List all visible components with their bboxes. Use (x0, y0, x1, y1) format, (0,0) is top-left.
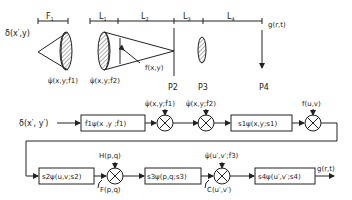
svg-text:F1: F1 (46, 12, 54, 22)
phase-label-2: ψ̄(x,y;f̂2) (90, 76, 120, 85)
mult1-input-label: ψ̄(x,y;f̂1) (145, 99, 175, 108)
block-s4-psi: s4ψ(u′,v′;s4) (258, 173, 301, 181)
block-input-label: δ(x′, y′) (19, 119, 48, 128)
output-label-top: g(r,t) (268, 21, 286, 29)
plane-p4: P4 (259, 83, 269, 92)
optical-labels: F1 L1 L2 L3 L4 δ(x′,y) f(x,y) ψ̄(x,y;f̂1… (5, 12, 286, 92)
output-label-bottom: g(r,t) (317, 165, 335, 173)
svg-text:L4: L4 (227, 12, 235, 22)
block-f1-psi: f̂1ψ(x ,y ;f̂1) (85, 119, 127, 128)
phase-label-1: ψ̄(x,y;f̂1) (48, 76, 78, 85)
svg-text:L1: L1 (99, 12, 107, 22)
block-row-1 (26, 109, 337, 176)
svg-text:L3: L3 (183, 12, 191, 22)
svg-text:L2: L2 (141, 12, 149, 22)
block-s2-psi: s2ψ(u,v;s2) (42, 173, 82, 181)
optical-system-diagram: F1 L1 L2 L3 L4 δ(x′,y) f(x,y) ψ̄(x,y;f̂1… (0, 0, 352, 200)
mult4-top-label: H(p,q) (99, 152, 121, 160)
block-row-1-labels: δ(x′, y′) f̂1ψ(x ,y ;f̂1) ψ̄(x,y;f̂1) ψ̄… (19, 99, 321, 128)
block-s3-psi: s3ψ(p,q;s3) (147, 173, 187, 181)
mult5-top-label: ψ̄(u′,v′;f̂3) (205, 151, 239, 160)
input-delta-label: δ(x′,y) (5, 29, 30, 38)
mult2-input-label: ψ̄(x,y;f̂2) (186, 99, 216, 108)
mult4-bottom-label: F(p,q) (100, 186, 121, 194)
plane-p2: P2 (168, 83, 178, 92)
mult5-bottom-label: C(u′,v′) (207, 186, 232, 194)
object-label: f(x,y) (145, 64, 164, 72)
plane-p3: P3 (198, 83, 208, 92)
mult3-input-label: f(u,v) (302, 100, 321, 108)
block-s1-psi: s1ψ(x,y;s1) (238, 120, 277, 128)
